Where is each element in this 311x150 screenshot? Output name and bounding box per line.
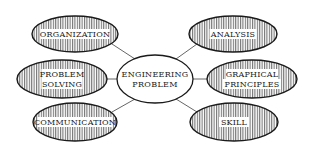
node-communication: COMMUNICATION bbox=[33, 103, 117, 141]
connector-organization bbox=[112, 44, 135, 59]
connector-skill bbox=[176, 99, 197, 112]
node-label: COMMUNICATION bbox=[34, 118, 116, 127]
node-label: PROBLEM bbox=[40, 70, 85, 79]
center-label: ENGINEERING bbox=[122, 70, 189, 79]
connector-analysis bbox=[176, 44, 197, 59]
node-analysis: ANALYSIS bbox=[189, 16, 277, 52]
node-problem-solving: PROBLEMSOLVING bbox=[17, 60, 107, 98]
center-label: PROBLEM bbox=[132, 80, 177, 89]
node-label: PRINCIPLES bbox=[225, 80, 280, 89]
node-organization: ORGANIZATION bbox=[32, 16, 118, 52]
center-ellipse bbox=[117, 55, 193, 103]
connector-communication bbox=[112, 99, 135, 112]
central-topic: ENGINEERINGPROBLEM bbox=[117, 55, 193, 103]
mind-map-diagram: ORGANIZATIONPROBLEMSOLVINGCOMMUNICATIONA… bbox=[0, 0, 311, 150]
node-label: GRAPHICAL bbox=[226, 70, 279, 79]
node-label: SKILL bbox=[221, 118, 248, 127]
node-skill: SKILL bbox=[190, 103, 278, 141]
node-label: ANALYSIS bbox=[210, 30, 255, 39]
node-label: ORGANIZATION bbox=[40, 30, 110, 39]
node-graphical-principles: GRAPHICALPRINCIPLES bbox=[207, 60, 297, 98]
node-label: SOLVING bbox=[42, 80, 82, 89]
